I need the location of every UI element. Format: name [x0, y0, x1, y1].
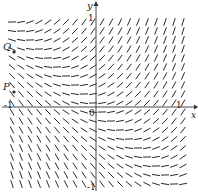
direction-segment [154, 91, 159, 97]
direction-segment [100, 181, 105, 187]
direction-segment [45, 100, 51, 105]
direction-segment [82, 181, 86, 188]
y-tick-label-neg1: -1 [87, 183, 96, 192]
direction-segment [100, 46, 105, 52]
direction-segment [154, 73, 158, 80]
direction-segment [136, 55, 140, 62]
y-axis-label: y [87, 1, 93, 11]
direction-segment [108, 172, 114, 178]
x-axis-arrow-icon [194, 105, 198, 110]
direction-segment [99, 74, 106, 79]
direction-segment [117, 164, 124, 168]
direction-segment [143, 165, 151, 166]
direction-segment [72, 136, 78, 142]
direction-segment [145, 64, 149, 71]
direction-segment [117, 181, 123, 187]
direction-segment [44, 75, 52, 77]
direction-segment [27, 74, 34, 78]
direction-segment [135, 119, 142, 123]
direction-segment [11, 180, 13, 188]
direction-segment [90, 55, 96, 60]
direction-segment [19, 118, 23, 125]
direction-segment [127, 73, 132, 79]
direction-segment [73, 154, 78, 160]
direction-segment [145, 73, 149, 80]
direction-segment [9, 73, 15, 79]
direction-segment [171, 136, 177, 141]
direction-segment [154, 45, 157, 52]
direction-segment [72, 28, 78, 34]
direction-segment [182, 63, 185, 70]
direction-segment [143, 174, 151, 176]
direction-segment [19, 144, 22, 151]
direction-segment [18, 73, 24, 78]
direction-segment [152, 156, 160, 157]
direction-segment [173, 54, 176, 61]
direction-segment [137, 18, 140, 25]
direction-segment [145, 36, 148, 43]
direction-segment [63, 47, 70, 51]
direction-segment [108, 163, 114, 168]
direction-segment [134, 173, 141, 177]
direction-segment [144, 128, 151, 132]
direction-segment [172, 91, 176, 98]
direction-segment [136, 73, 141, 79]
direction-segment [18, 91, 23, 97]
direction-segment [118, 64, 123, 70]
direction-segment [53, 92, 60, 96]
direction-segment [162, 137, 169, 142]
direction-segment [54, 38, 61, 42]
direction-segment [108, 181, 113, 187]
direction-segment [173, 36, 176, 44]
direction-segment [46, 127, 51, 133]
direction-segment [125, 156, 133, 158]
direction-segment [81, 136, 87, 141]
direction-segment [64, 172, 68, 179]
direction-segment [55, 154, 59, 161]
direction-segment [136, 27, 139, 34]
direction-segment [37, 136, 41, 143]
direction-segment [134, 165, 142, 167]
direction-segment [90, 137, 97, 141]
x-tick-label-neg1: -1 [4, 101, 13, 110]
direction-segment [36, 20, 43, 24]
direction-segment [82, 19, 87, 25]
direction-segment [99, 55, 105, 61]
direction-segment [9, 82, 14, 88]
direction-segment [63, 28, 69, 33]
direction-segment [63, 38, 70, 43]
direction-segment [72, 37, 78, 42]
direction-segment [162, 118, 168, 124]
direction-segment [109, 37, 113, 44]
direction-segment [73, 19, 78, 25]
direction-segment [36, 91, 42, 96]
direction-segment [37, 162, 40, 169]
direction-segment [11, 144, 14, 151]
direction-segment [146, 27, 149, 34]
direction-segment [73, 172, 77, 179]
direction-segment [116, 120, 124, 121]
direction-segment [153, 128, 160, 133]
direction-segment [28, 144, 32, 151]
direction-segment [107, 138, 115, 140]
direction-segment [125, 164, 132, 168]
direction-segment [54, 118, 60, 124]
direction-segment [62, 101, 69, 105]
direction-segment [63, 110, 70, 114]
direction-segment [27, 100, 32, 106]
direction-segment [63, 118, 69, 123]
direction-segment [80, 111, 88, 113]
direction-segment [45, 20, 52, 25]
direction-segment [179, 183, 187, 184]
direction-segment [62, 84, 70, 85]
direction-segment [134, 129, 142, 132]
direction-segment [182, 45, 185, 53]
direction-segment [29, 180, 32, 188]
direction-segment [90, 145, 96, 150]
direction-segment [35, 30, 43, 33]
direction-segment [20, 153, 23, 160]
direction-segment [81, 46, 87, 51]
direction-segment [35, 39, 43, 40]
direction-segment [45, 29, 52, 33]
direction-segment [8, 30, 16, 31]
